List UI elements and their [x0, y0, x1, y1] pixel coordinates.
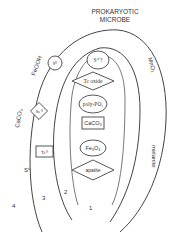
biomineralization-diagram: PROKARYOTIC MICROBE FeOOH CaCO₃ S⁰ MnO₂ … [0, 0, 174, 232]
zone4-number: 4 [12, 203, 16, 209]
s0-circle-text: S⁰ [53, 61, 58, 66]
melanite-label: melanite [151, 145, 157, 168]
zone3-number: 3 [42, 195, 46, 201]
caco3-box-text: CaCO₃ [84, 120, 102, 126]
tc-oxide-text: Tc oxide [83, 78, 103, 84]
fe3o4-text: Fe₃O₄ [85, 145, 101, 151]
feooh-label: FeOOH [30, 55, 43, 76]
poly-po4-text: poly-PO₄ [83, 101, 104, 107]
apatite-text: apatite [85, 167, 100, 173]
s0-top-text: S⁰ ? [94, 57, 103, 63]
s0-outer-label: S⁰ [24, 167, 31, 173]
se0-diamond-text: Se⁰ [36, 109, 43, 114]
caco3-outer-label: CaCO₃ [14, 108, 23, 128]
title-line2: MICROBE [100, 16, 131, 23]
title-line1: PROKARYOTIC [91, 8, 139, 15]
zone1-number: 1 [89, 205, 93, 211]
zone2-number: 2 [64, 189, 68, 195]
te0-box-text: Te⁰ [41, 150, 48, 155]
